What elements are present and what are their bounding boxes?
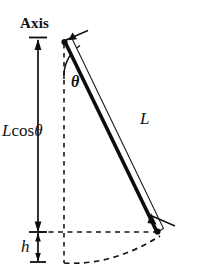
rotation-arrow-top-icon <box>66 31 88 41</box>
height-label: h <box>21 238 30 255</box>
lcos-theta-cos-symbol: cos <box>11 121 34 140</box>
lcos-theta-angle-symbol: θ <box>34 121 42 140</box>
pendulum-diagram: Axis Lcosθ θ L h <box>0 0 208 276</box>
rod-body <box>65 38 164 233</box>
axis-label: Axis <box>20 16 49 31</box>
h-dimension <box>30 233 46 262</box>
swing-arc <box>64 236 160 263</box>
rod-length-label: L <box>140 110 149 127</box>
rod-heavy-edge <box>65 42 157 233</box>
angle-label: θ <box>71 74 79 90</box>
rod-end-point <box>154 228 160 234</box>
lcos-theta-label: Lcosθ <box>2 122 43 139</box>
